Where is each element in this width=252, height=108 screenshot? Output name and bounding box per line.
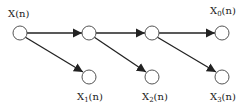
label-x3: X3(n): [210, 91, 236, 104]
node-output-x0: [215, 26, 229, 40]
node-stage-1: [82, 26, 96, 40]
node-output-x2: [145, 70, 159, 84]
label-x0: X0(n): [210, 5, 236, 18]
label-x2: X2(n): [142, 91, 168, 104]
node-output-x3: [215, 70, 229, 84]
edge-n1-b2: [94, 37, 146, 72]
node-output-x1: [82, 70, 96, 84]
node-stage-2: [145, 26, 159, 40]
edge-n0-b1: [25, 37, 83, 72]
diagram-canvas: X(n) X0(n) X1(n) X2(n) X3(n): [0, 0, 252, 108]
edge-n2-b3: [157, 37, 216, 72]
label-x1: X1(n): [77, 91, 103, 104]
label-input: X(n): [8, 8, 29, 19]
node-input: [13, 26, 27, 40]
